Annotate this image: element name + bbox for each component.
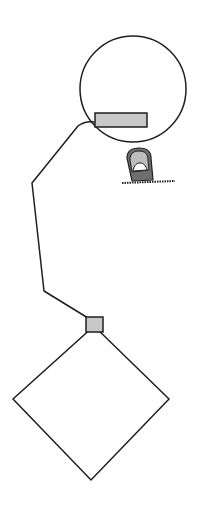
finger-press-icon — [127, 148, 153, 181]
cable-line — [32, 122, 95, 318]
diagram-canvas — [0, 0, 208, 519]
connector-square — [86, 317, 103, 332]
large-diamond — [13, 326, 169, 480]
surface-line — [122, 181, 175, 183]
grey-rectangle — [95, 113, 147, 127]
